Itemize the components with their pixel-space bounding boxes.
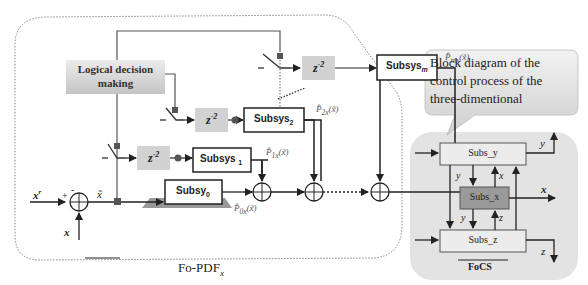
callout-line-3: three-dimentional bbox=[430, 90, 574, 108]
input-ref-label: xr bbox=[33, 188, 41, 201]
output-p2: P̂2x(x̃) bbox=[316, 104, 339, 117]
x-out-label: x bbox=[541, 183, 547, 195]
callout-text: Block diagram of the control process of … bbox=[430, 54, 574, 108]
feedback-label: x bbox=[64, 226, 70, 238]
z-out-label: z bbox=[541, 245, 545, 257]
callout-line-2: control process of the bbox=[430, 72, 574, 90]
delay-block-m[interactable]: z-2 bbox=[313, 60, 324, 76]
fopdf-boundary bbox=[15, 15, 402, 260]
subs-z-block[interactable]: Subs_z bbox=[440, 234, 526, 245]
y2-label: y bbox=[461, 212, 465, 223]
subsys-2-block[interactable]: Subsys2 bbox=[254, 113, 293, 126]
x1-label: x bbox=[499, 170, 503, 181]
callout-line-1: Block diagram of the bbox=[430, 54, 574, 72]
decision-label-2: making bbox=[66, 76, 165, 90]
z1-label: z bbox=[499, 212, 503, 223]
error-label: x̃ bbox=[97, 188, 102, 200]
subsys-1-block[interactable]: Subsys 1 bbox=[200, 153, 242, 166]
focs-caption: FoCS bbox=[468, 261, 492, 272]
decision-label-1: Logical decision bbox=[66, 62, 165, 76]
y-out-label: y bbox=[540, 137, 545, 149]
subs-y-block[interactable]: Subs_y bbox=[440, 147, 526, 158]
decision-block[interactable]: Logical decision making bbox=[66, 62, 165, 90]
y1-label: y bbox=[456, 170, 460, 181]
minus-sign: - bbox=[71, 184, 74, 195]
subsys-m-block[interactable]: Subsysm bbox=[386, 60, 428, 73]
output-p1: P̂1x(x̃) bbox=[266, 147, 289, 160]
subs-x-block[interactable]: Subs_x bbox=[460, 191, 509, 202]
subsys-0-block[interactable]: Subsy0 bbox=[176, 185, 210, 198]
delay-block-1[interactable]: z-2 bbox=[148, 150, 159, 166]
plus-sign: + bbox=[62, 190, 68, 201]
output-p0: P̂0x(x̃) bbox=[234, 203, 257, 216]
fopdf-caption: Fo-PDFx bbox=[178, 260, 224, 278]
delay-block-2[interactable]: z-2 bbox=[206, 112, 217, 128]
